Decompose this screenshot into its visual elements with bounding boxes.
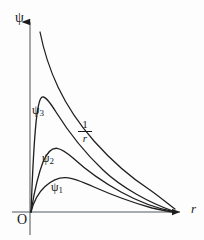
curve-label-psi-3: ψ3	[32, 104, 44, 116]
inverse-r-denominator: r	[78, 133, 92, 145]
curve-label-psi-1-subscript: 1	[59, 185, 64, 195]
origin-label: O	[17, 213, 27, 227]
inverse-r-numerator: 1	[78, 119, 92, 131]
curve-label-psi-2-base: ψ	[42, 151, 50, 165]
curve-label-psi-1-base: ψ	[51, 180, 59, 194]
radial-wavefunction-plot	[0, 0, 204, 240]
curve-label-psi-2-subscript: 2	[50, 156, 55, 166]
x-axis-label: r	[191, 202, 196, 215]
curve-label-inverse-r: 1 r	[78, 119, 92, 144]
curve-label-psi-2: ψ2	[42, 152, 54, 164]
y-axis-label: ψ	[15, 11, 24, 25]
curve-label-psi-3-base: ψ	[32, 103, 40, 117]
curve-label-psi-1: ψ1	[51, 181, 63, 193]
curve-label-psi-3-subscript: 3	[40, 108, 45, 118]
